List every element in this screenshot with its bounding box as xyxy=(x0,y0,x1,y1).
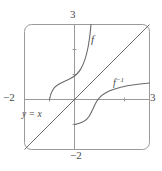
curve-label-f-inverse-exponent: −1 xyxy=(116,76,124,84)
axis-label-right: 3 xyxy=(150,92,156,103)
axis-label-left: −2 xyxy=(3,92,15,103)
curve-label-f: f xyxy=(91,34,94,45)
curve-label-line-y-equals-x: y = x xyxy=(22,110,42,120)
axis-label-bottom: −2 xyxy=(70,150,82,161)
inverse-function-graph-figure: 3 −2 3 −2 f f−1 y = x xyxy=(0,0,162,171)
plot-canvas xyxy=(0,0,162,171)
curve-label-f-inverse: f−1 xyxy=(113,78,124,88)
axis-label-top: 3 xyxy=(70,9,76,20)
